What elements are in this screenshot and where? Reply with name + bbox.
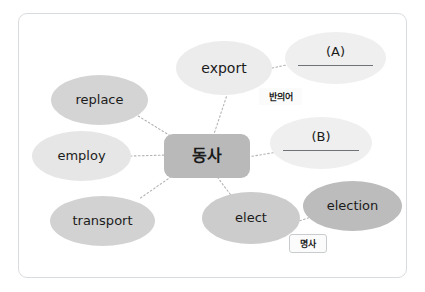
node-employ[interactable]: employ — [32, 131, 131, 181]
node-blank-b[interactable]: (B) — [270, 117, 372, 169]
node-center-label: 동사 — [192, 148, 222, 165]
node-export[interactable]: export — [176, 41, 272, 95]
node-transport[interactable]: transport — [50, 196, 155, 246]
tag-noun: 명사 — [289, 234, 327, 253]
connector-center-employ — [131, 155, 168, 156]
node-replace[interactable]: replace — [51, 75, 148, 125]
node-election-label: election — [327, 199, 379, 213]
node-transport-label: transport — [72, 214, 132, 228]
node-blank-b-label: (B) — [311, 130, 330, 144]
tag-antonym-label: 반의어 — [269, 90, 293, 103]
node-blank-a-label: (A) — [326, 45, 345, 59]
tag-noun-label: 명사 — [300, 237, 316, 250]
answer-line-b — [283, 150, 359, 151]
node-elect[interactable]: elect — [202, 192, 300, 244]
tag-antonym: 반의어 — [259, 88, 302, 105]
mindmap-page: export (A) replace employ (B) transport … — [0, 0, 425, 292]
node-elect-label: elect — [235, 211, 267, 225]
answer-line-a — [298, 65, 373, 66]
node-election[interactable]: election — [303, 181, 402, 231]
node-replace-label: replace — [75, 93, 123, 107]
node-center-verb[interactable]: 동사 — [164, 134, 250, 178]
node-employ-label: employ — [57, 149, 105, 163]
node-blank-a[interactable]: (A) — [285, 32, 386, 84]
node-export-label: export — [201, 61, 246, 76]
